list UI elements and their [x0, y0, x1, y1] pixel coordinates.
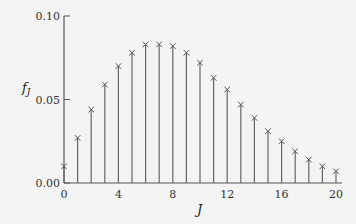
x-tick-label: 20 — [329, 188, 343, 201]
axes: 0.000.050.10048121620 — [36, 10, 344, 201]
x-axis-label: J — [194, 202, 203, 217]
x-tick-label: 0 — [61, 188, 68, 201]
x-tick-label: 16 — [275, 188, 289, 201]
y-tick-label: 0.10 — [36, 10, 61, 23]
x-tick-label: 4 — [115, 188, 122, 201]
stem-chart: 0.000.050.10048121620 fJ J — [0, 0, 356, 224]
data-stems — [61, 42, 339, 183]
x-tick-label: 8 — [169, 188, 176, 201]
x-tick-label: 12 — [220, 188, 234, 201]
y-tick-label: 0.00 — [36, 177, 61, 190]
y-tick-label: 0.05 — [36, 94, 61, 107]
y-axis-label: fJ — [21, 80, 32, 97]
